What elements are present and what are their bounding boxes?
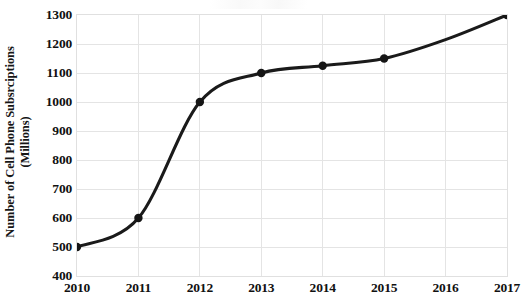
x-axis-tick-label: 2017 <box>476 280 530 296</box>
data-point <box>319 62 327 70</box>
y-axis-title-line1: Number of Cell Phone Subsrciptions <box>3 46 17 237</box>
data-point <box>77 243 81 251</box>
data-point <box>380 54 388 62</box>
data-point <box>196 98 204 106</box>
x-axis-tick-label: 2010 <box>46 280 108 296</box>
y-axis-tick-label: 1100 <box>30 65 72 81</box>
plot-svg <box>77 15 507 276</box>
data-point <box>257 69 265 77</box>
y-axis-tick-label: 700 <box>30 181 72 197</box>
x-axis-tick-label: 2016 <box>415 280 477 296</box>
cropped-title-remnant <box>210 0 320 9</box>
x-axis-tick-label: 2012 <box>169 280 231 296</box>
x-axis-tick-labels: 20102011201220132014201520162017 <box>0 280 530 301</box>
x-axis-tick-label: 2015 <box>353 280 415 296</box>
y-axis-tick-label: 900 <box>30 123 72 139</box>
y-axis-tick-label: 800 <box>30 152 72 168</box>
y-axis-tick-label: 1000 <box>30 94 72 110</box>
y-axis-tick-label: 1200 <box>30 36 72 52</box>
y-axis-tick-label: 500 <box>30 239 72 255</box>
line-chart: Number of Cell Phone Subsrciptions (Mill… <box>0 0 530 301</box>
x-axis-tick-label: 2011 <box>107 280 169 296</box>
x-axis-tick-label: 2014 <box>292 280 354 296</box>
y-axis-tick-labels: 1300120011001000900800700600500400 <box>28 0 72 301</box>
series-markers <box>77 15 507 251</box>
data-point <box>134 214 142 222</box>
plot-area <box>76 14 508 277</box>
data-point <box>503 15 507 19</box>
y-axis-tick-label: 1300 <box>30 7 72 23</box>
x-axis-tick-label: 2013 <box>230 280 292 296</box>
y-axis-tick-label: 600 <box>30 210 72 226</box>
